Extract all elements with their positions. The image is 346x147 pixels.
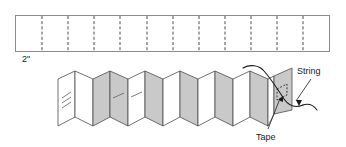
accordion-panel	[110, 71, 128, 126]
accordion-panel	[128, 71, 145, 126]
string-label: String	[297, 66, 321, 76]
paper-strip-group: 2"	[16, 16, 330, 65]
string-callout: String	[296, 66, 321, 101]
accordion-panel	[163, 71, 180, 126]
strip-width-label: 2"	[22, 54, 30, 64]
fan-fold-instruction-diagram: 2"	[0, 0, 346, 147]
accordion-panel	[250, 71, 268, 126]
string-leader-line	[296, 79, 311, 101]
accordion-panel-end-left	[58, 71, 75, 126]
tape-label: Tape	[256, 132, 276, 142]
accordion-panel	[198, 71, 215, 126]
accordion-group	[58, 68, 292, 126]
accordion-panel	[75, 71, 93, 126]
string-knot-icon	[296, 100, 302, 106]
accordion-panel	[233, 71, 250, 126]
string-tail-path	[303, 104, 317, 110]
accordion-panel	[180, 71, 198, 126]
accordion-panel	[215, 71, 233, 126]
accordion-panel	[145, 71, 163, 126]
accordion-panel	[93, 71, 110, 126]
